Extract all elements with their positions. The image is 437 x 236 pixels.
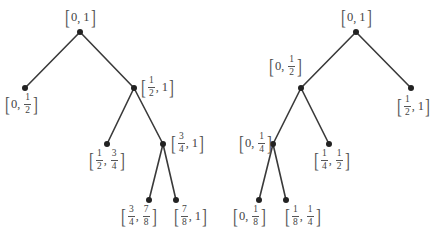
comma: , [77, 12, 80, 24]
interval-label: [78,1] [173, 205, 208, 227]
denominator: 2 [97, 161, 102, 172]
comma: , [104, 154, 107, 166]
denominator: 2 [405, 107, 410, 118]
endpoint-value: 1 [359, 11, 365, 24]
interval-label: [12,34] [88, 149, 126, 171]
endpoint-value: 1 [192, 137, 198, 150]
fraction: 78 [181, 205, 188, 227]
numerator: 1 [96, 149, 103, 161]
denominator: 4 [308, 217, 313, 228]
numerator: 1 [404, 95, 411, 107]
numerator: 7 [143, 205, 150, 217]
comma: , [245, 210, 248, 222]
left-bracket: [ [314, 150, 319, 171]
comma: , [189, 210, 192, 222]
right-bracket: ] [91, 7, 96, 28]
fraction: 12 [148, 76, 155, 98]
fraction: 12 [336, 149, 343, 171]
numerator: 1 [258, 132, 265, 144]
denominator: 8 [293, 217, 298, 228]
tree-edge [356, 32, 411, 88]
numerator: 1 [24, 93, 31, 105]
numerator: 3 [178, 132, 185, 144]
right-bracket: ] [33, 94, 38, 115]
interval-label: [0,1] [64, 7, 97, 28]
interval-label: [18,14] [284, 205, 322, 227]
left-bracket: [ [5, 94, 10, 115]
fraction: 18 [252, 205, 259, 227]
interval-label: [14,12] [313, 149, 351, 171]
tree-edge [273, 144, 286, 200]
endpoint-value: 1 [195, 210, 201, 223]
right-bracket: ] [202, 206, 207, 227]
tree-node-dot [326, 141, 332, 147]
right-bracket: ] [345, 150, 350, 171]
interval-label: [0,14] [238, 132, 273, 154]
tree-edge [107, 88, 134, 144]
interval-label: [12,1] [140, 76, 175, 98]
tree-edge [25, 32, 80, 88]
left-bracket: [ [239, 133, 244, 154]
left-bracket: [ [171, 133, 176, 154]
right-bracket: ] [120, 150, 125, 171]
tree-node-dot [353, 29, 359, 35]
tree-node-dot [77, 29, 83, 35]
fraction: 14 [321, 149, 328, 171]
endpoint-value: 1 [162, 81, 168, 94]
tree-edge [301, 32, 356, 88]
endpoint-value: 1 [418, 100, 424, 113]
fraction: 34 [111, 149, 118, 171]
denominator: 8 [144, 217, 149, 228]
fraction: 78 [143, 205, 150, 227]
denominator: 4 [129, 217, 134, 228]
interval-label: [0,1] [340, 7, 373, 28]
comma: , [136, 210, 139, 222]
interval-label: [0,12] [4, 93, 39, 115]
tree-node-dot [104, 141, 110, 147]
comma: , [281, 60, 284, 72]
fraction: 12 [96, 149, 103, 171]
tree-node-dot [298, 85, 304, 91]
diagram-canvas: [0,1][0,12][12,1][12,34][34,1][34,78][78… [0, 0, 437, 236]
interval-label: [0,12] [268, 55, 303, 77]
denominator: 2 [25, 105, 30, 116]
denominator: 4 [179, 144, 184, 155]
comma: , [156, 81, 159, 93]
right-bracket: ] [425, 96, 430, 117]
numerator: 3 [128, 205, 135, 217]
numerator: 1 [336, 149, 343, 161]
tree-edge [149, 144, 163, 200]
numerator: 1 [288, 55, 295, 67]
numerator: 1 [307, 205, 314, 217]
comma: , [353, 12, 356, 24]
interval-label: [12,1] [396, 95, 431, 117]
denominator: 4 [112, 161, 117, 172]
numerator: 1 [292, 205, 299, 217]
left-bracket: [ [141, 77, 146, 98]
fraction: 34 [178, 132, 185, 154]
comma: , [412, 100, 415, 112]
interval-label: [0,18] [232, 205, 267, 227]
left-bracket: [ [233, 206, 238, 227]
right-bracket: ] [152, 206, 157, 227]
numerator: 7 [181, 205, 188, 217]
right-bracket: ] [367, 7, 372, 28]
right-bracket: ] [199, 133, 204, 154]
tree-edge [273, 88, 301, 144]
comma: , [186, 137, 189, 149]
denominator: 2 [149, 88, 154, 99]
right-bracket: ] [169, 77, 174, 98]
left-bracket: [ [341, 7, 346, 28]
tree-node-dot [22, 85, 28, 91]
right-bracket: ] [267, 133, 272, 154]
right-bracket: ] [261, 206, 266, 227]
denominator: 2 [289, 67, 294, 78]
tree-node-dot [146, 197, 152, 203]
fraction: 18 [292, 205, 299, 227]
tree-node-dot [256, 197, 262, 203]
left-bracket: [ [285, 206, 290, 227]
comma: , [300, 210, 303, 222]
tree-node-dot [173, 197, 179, 203]
left-bracket: [ [121, 206, 126, 227]
left-bracket: [ [65, 7, 70, 28]
